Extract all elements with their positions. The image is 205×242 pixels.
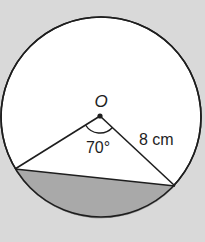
center-point bbox=[97, 113, 102, 118]
angle-label: 70° bbox=[86, 139, 110, 156]
radius-label: 8 cm bbox=[139, 131, 174, 148]
center-label: O bbox=[94, 92, 107, 111]
circle-segment-diagram: O 70° 8 cm bbox=[0, 0, 205, 242]
